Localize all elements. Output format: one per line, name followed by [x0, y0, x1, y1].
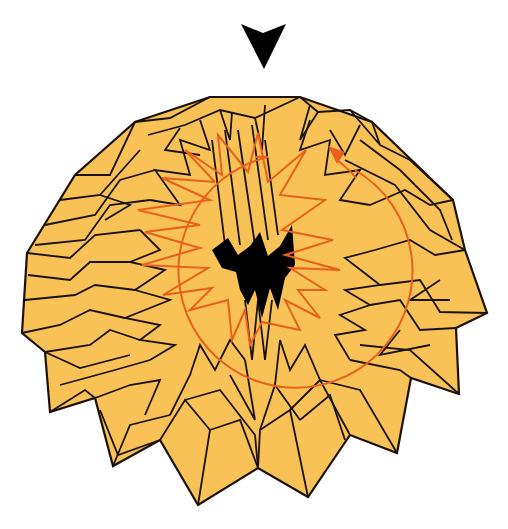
origami-rosette-diagram [0, 0, 508, 529]
down-arrowhead-icon [241, 24, 286, 69]
rosette-body [22, 97, 487, 505]
